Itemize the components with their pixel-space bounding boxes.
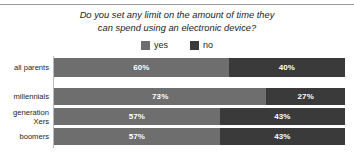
chart-container: Do you set any limit on the amount of ti…: [0, 0, 354, 156]
bar-segment-no: 43%: [220, 108, 345, 125]
bar-value-label: 27%: [298, 93, 314, 101]
top-divider-rule: [0, 4, 354, 5]
bar-row: boomers57%43%: [0, 128, 354, 145]
category-label-generation-xers: generation Xers: [0, 108, 52, 126]
chart-title-line-1: Do you set any limit on the amount of ti…: [0, 9, 354, 22]
bar-value-label: 73%: [152, 93, 168, 101]
bar-segment-no: 40%: [229, 58, 345, 77]
category-label-boomers: boomers: [0, 132, 52, 141]
bar-track: 57%43%: [54, 128, 345, 145]
bar-value-label: 43%: [274, 113, 290, 121]
chart-title-line-2: can spend using an electronic device?: [0, 22, 354, 35]
bar-value-label: 57%: [129, 113, 145, 121]
bar-segment-no: 43%: [220, 128, 345, 145]
bar-row: generation Xers57%43%: [0, 108, 354, 125]
bar-segment-yes: 73%: [54, 88, 266, 105]
bar-value-label: 43%: [274, 133, 290, 141]
bar-row: all parents60%40%: [0, 58, 354, 77]
bar-value-label: 57%: [129, 133, 145, 141]
plot-area: all parents60%40%millennials73%27%genera…: [0, 56, 354, 148]
chart-title: Do you set any limit on the amount of ti…: [0, 9, 354, 35]
legend-swatch-no-icon: [190, 41, 199, 50]
bar-track: 57%43%: [54, 108, 345, 125]
legend-label-yes: yes: [154, 41, 168, 50]
category-label-all-parents: all parents: [0, 63, 52, 72]
category-label-millennials: millennials: [0, 92, 52, 101]
legend-label-no: no: [203, 41, 213, 50]
chart-legend: yes no: [0, 41, 354, 50]
bar-track: 73%27%: [54, 88, 345, 105]
bar-segment-yes: 60%: [54, 58, 229, 77]
bar-segment-yes: 57%: [54, 128, 220, 145]
legend-item-yes: yes: [141, 41, 168, 50]
legend-item-no: no: [190, 41, 213, 50]
legend-swatch-yes-icon: [141, 41, 150, 50]
bar-segment-no: 27%: [266, 88, 345, 105]
bar-value-label: 60%: [133, 64, 149, 72]
bar-track: 60%40%: [54, 58, 345, 77]
bar-row: millennials73%27%: [0, 88, 354, 105]
bar-segment-yes: 57%: [54, 108, 220, 125]
bar-value-label: 40%: [279, 64, 295, 72]
